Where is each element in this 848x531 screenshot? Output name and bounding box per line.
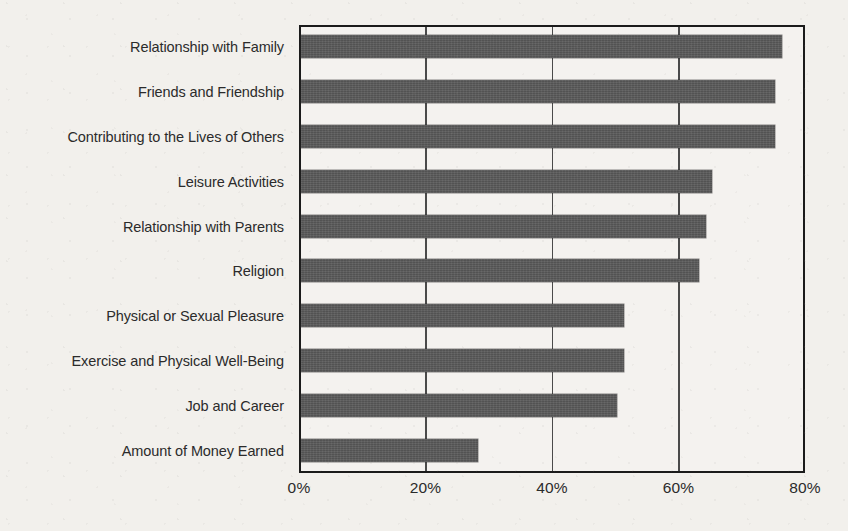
bar [301, 304, 624, 327]
category-label: Leisure Activities [178, 172, 284, 192]
bar [301, 80, 775, 103]
bar [301, 215, 706, 238]
category-label: Religion [232, 261, 284, 281]
bar [301, 35, 782, 58]
x-tick-label: 80% [765, 479, 845, 497]
bar [301, 125, 775, 148]
bar [301, 170, 712, 193]
category-label: Relationship with Parents [123, 217, 284, 237]
category-label: Exercise and Physical Well-Being [71, 351, 284, 371]
bar [301, 439, 478, 462]
bar [301, 394, 617, 417]
bar-chart: Relationship with FamilyFriends and Frie… [0, 0, 848, 531]
bar [301, 349, 624, 372]
plot-area [299, 25, 805, 473]
bar [301, 259, 699, 282]
category-label: Friends and Friendship [138, 82, 284, 102]
category-label: Relationship with Family [130, 37, 284, 57]
category-axis-labels: Relationship with FamilyFriends and Frie… [0, 25, 292, 473]
chart-title [300, 0, 806, 5]
x-tick-label: 60% [639, 479, 719, 497]
value-axis-labels: 0%20%40%60%80% [0, 479, 848, 509]
category-label: Contributing to the Lives of Others [67, 127, 284, 147]
x-tick-label: 20% [386, 479, 466, 497]
category-label: Physical or Sexual Pleasure [106, 306, 284, 326]
category-label: Amount of Money Earned [122, 441, 284, 461]
category-label: Job and Career [185, 396, 284, 416]
x-tick-label: 40% [512, 479, 592, 497]
x-tick-label: 0% [259, 479, 339, 497]
